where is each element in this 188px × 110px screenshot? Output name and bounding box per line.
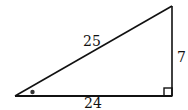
right-angle-square-icon (164, 88, 172, 96)
right-triangle (15, 6, 172, 96)
base-label: 24 (84, 95, 102, 110)
hypotenuse-line (15, 6, 172, 96)
hypotenuse-label: 25 (83, 33, 101, 49)
angle-dot-icon (30, 90, 34, 94)
triangle-diagram: 25 24 7 (0, 0, 188, 110)
height-label: 7 (177, 49, 186, 65)
